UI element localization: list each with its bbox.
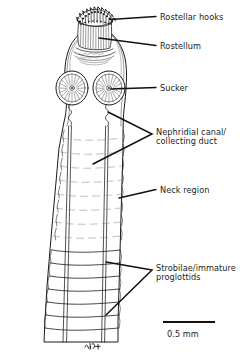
artist-signature	[85, 343, 100, 349]
nephridial-canal-left	[63, 104, 72, 342]
leader-neck-region	[119, 190, 156, 199]
label-neck-region: Neck region	[160, 186, 209, 196]
leader-rostellar-hooks	[110, 17, 156, 20]
tapeworm-scolex-figure	[0, 0, 248, 362]
label-strobilae-proglottids: Strobilae/immature proglottids	[156, 264, 236, 283]
label-nephridial-canal: Nephridial canal/ collecting duct	[156, 128, 226, 147]
label-rostellum: Rostellum	[160, 42, 201, 52]
neck-lateral-crenulations	[55, 130, 125, 240]
rostellum-base-fold-5	[80, 62, 108, 65]
neck-region-dashes	[53, 138, 123, 238]
leader-lines	[93, 17, 156, 316]
label-sucker: Sucker	[160, 84, 188, 94]
sucker-right	[93, 71, 125, 105]
label-rostellar-hooks: Rostellar hooks	[160, 13, 223, 23]
organism-drawing	[44, 7, 127, 349]
rostellar-hooks-crown	[76, 7, 115, 27]
sucker-left	[56, 71, 88, 105]
leader-strobilae-bracket	[106, 262, 152, 315]
rostellum-base-squiggle-a	[79, 53, 103, 55]
scale-bar-label: 0.5 mm	[167, 330, 199, 340]
